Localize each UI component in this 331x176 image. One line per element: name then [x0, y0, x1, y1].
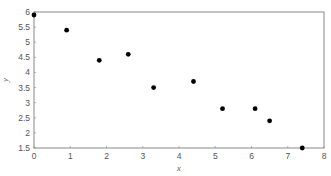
data-points — [32, 13, 305, 151]
x-tick-label: 5 — [213, 151, 218, 161]
data-point — [97, 58, 102, 63]
x-tick-label: 4 — [177, 151, 182, 161]
x-tick-label: 8 — [322, 151, 327, 161]
scatter-chart: 1.522.533.544.555.56 012345678 x y — [0, 0, 331, 176]
x-tick-label: 1 — [68, 151, 73, 161]
data-point — [64, 28, 69, 33]
y-tick-label: 3 — [25, 98, 30, 108]
y-tick-label: 6 — [25, 7, 30, 17]
plot-frame — [34, 12, 324, 148]
y-tick-label: 5.5 — [18, 22, 30, 32]
y-tick-label: 2.5 — [18, 113, 30, 123]
data-point — [191, 79, 196, 84]
x-tick-label: 3 — [140, 151, 145, 161]
data-point — [220, 106, 225, 111]
x-tick-label: 7 — [285, 151, 290, 161]
data-point — [151, 85, 156, 90]
y-tick-label: 2 — [25, 128, 30, 138]
y-tick-label: 1.5 — [18, 143, 30, 153]
data-point — [32, 13, 37, 18]
y-tick-label: 5 — [25, 37, 30, 47]
data-point — [126, 52, 131, 57]
y-tick-label: 3.5 — [18, 83, 30, 93]
x-tick-label: 6 — [249, 151, 254, 161]
y-axis-ticks: 1.522.533.544.555.56 — [18, 7, 36, 153]
data-point — [253, 106, 258, 111]
y-axis-label: y — [0, 78, 10, 83]
x-axis-label: x — [176, 163, 181, 173]
plot-axes — [34, 12, 324, 148]
y-tick-label: 4 — [25, 67, 30, 77]
data-point — [267, 118, 272, 123]
y-tick-label: 4.5 — [18, 52, 30, 62]
x-tick-label: 0 — [32, 151, 37, 161]
x-tick-label: 2 — [104, 151, 109, 161]
data-point — [300, 146, 305, 151]
